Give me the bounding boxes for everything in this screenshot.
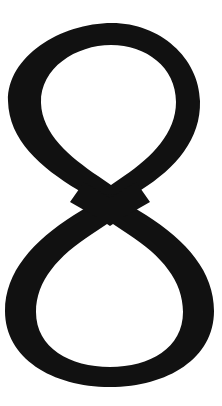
- image-canvas: 8: [0, 0, 222, 406]
- digit-eight-glyph: [0, 0, 222, 406]
- glyph-container: [0, 0, 222, 406]
